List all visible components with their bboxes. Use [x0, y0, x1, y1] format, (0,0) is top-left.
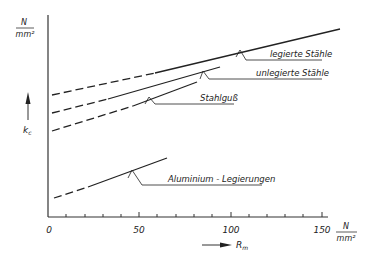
kc-vs-rm-diagram: 0 50 100 150 N mm² Rm N mm² kc legierte …	[0, 0, 378, 261]
y-unit-denominator: mm²	[16, 30, 36, 39]
x-tick-50: 50	[133, 225, 145, 235]
label-legierte-staehle: legierte Stähle	[270, 49, 332, 59]
series-legierte-staehle	[52, 29, 340, 95]
label-unlegierte-staehle: unlegierte Stähle	[256, 68, 329, 78]
x-tick-150: 150	[313, 225, 330, 235]
y-arrow-head-icon	[26, 92, 31, 104]
x-tick-100: 100	[222, 225, 239, 235]
x-unit-numerator: N	[343, 222, 349, 231]
x-arrow-head-icon	[220, 243, 232, 248]
x-ticks	[66, 212, 322, 217]
label-stahlguss: Stahlguß	[200, 93, 238, 103]
label-aluminium-legierungen: Aluminium - Legierungen	[167, 174, 275, 184]
x-tick-0: 0	[46, 225, 52, 235]
x-symbol: Rm	[236, 240, 248, 251]
y-symbol: kc	[23, 125, 32, 136]
y-unit-numerator: N	[21, 18, 27, 27]
x-unit-denominator: mm²	[337, 234, 357, 243]
